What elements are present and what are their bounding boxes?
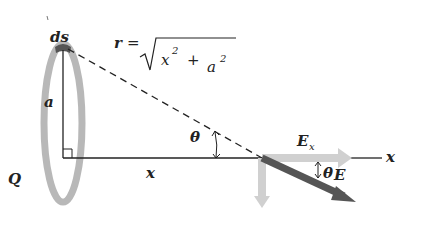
right-angle-marker [63, 149, 72, 158]
label-Q: Q [8, 170, 21, 188]
label-plus: + [187, 51, 200, 69]
label-equals: = [127, 34, 140, 52]
label-a-squared-base: a [207, 58, 216, 76]
Ey-component-bar [258, 158, 266, 198]
Ey-component-arrowhead [254, 196, 270, 208]
Ex-component-arrowhead [338, 148, 352, 168]
label-a: a [44, 93, 54, 111]
label-x-axis-end: x [385, 148, 396, 166]
stray-mark [47, 16, 48, 20]
theta-arc-left [215, 132, 217, 158]
label-r: r [114, 34, 123, 52]
label-x-segment: x [145, 164, 156, 182]
label-x-squared-base: x [161, 51, 170, 69]
label-theta-left: θ [190, 128, 200, 146]
label-x-exponent: 2 [171, 45, 178, 56]
label-ds: ds [50, 28, 69, 46]
label-a-exponent: 2 [219, 53, 226, 64]
label-E: E [333, 166, 346, 184]
ring-field-diagram: ds r = x 2 + a 2 a θ x Q E x x θ E [0, 0, 426, 228]
label-Ex-subscript: x [309, 141, 315, 152]
label-Ex: E [296, 132, 309, 150]
label-theta-right: θ [323, 164, 333, 182]
